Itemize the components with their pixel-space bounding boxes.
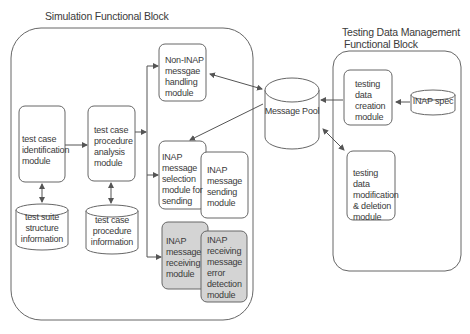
testing-data-modification-label: testing data modification & deletion mod…	[353, 168, 397, 223]
testing-data-block-title-line1: Testing Data Management	[342, 26, 460, 38]
arrow-non-inap-pool	[210, 74, 262, 89]
message-pool-label: Message Pool	[262, 106, 322, 117]
test-case-identification-label: test case identification module	[22, 134, 66, 167]
testing-data-creation-label: testing data creation module	[355, 79, 391, 123]
inap-error-detection-label: INAP receiving message error detection m…	[207, 235, 247, 301]
inap-receiving-label: INAP message receiving module	[166, 236, 206, 280]
arrow-selection-pool	[190, 104, 263, 140]
inap-spec-label: INAP spec	[410, 96, 456, 107]
test-case-procedure-label: test case procedure information	[89, 215, 135, 248]
testing-data-block-title-line2: Functional Block	[344, 38, 418, 50]
simulation-block-title: Simulation Functional Block	[45, 10, 169, 22]
non-inap-handling-label: Non-INAP messgae handling module	[165, 55, 205, 99]
inap-sending-label: INAP message sending module	[207, 165, 247, 209]
test-case-procedure-analysis-label: test case procedure analysis module	[94, 125, 136, 169]
inap-selection-label: INAP message selection module for sendin…	[162, 152, 206, 207]
test-suite-structure-label: test suite structure information	[20, 212, 64, 245]
